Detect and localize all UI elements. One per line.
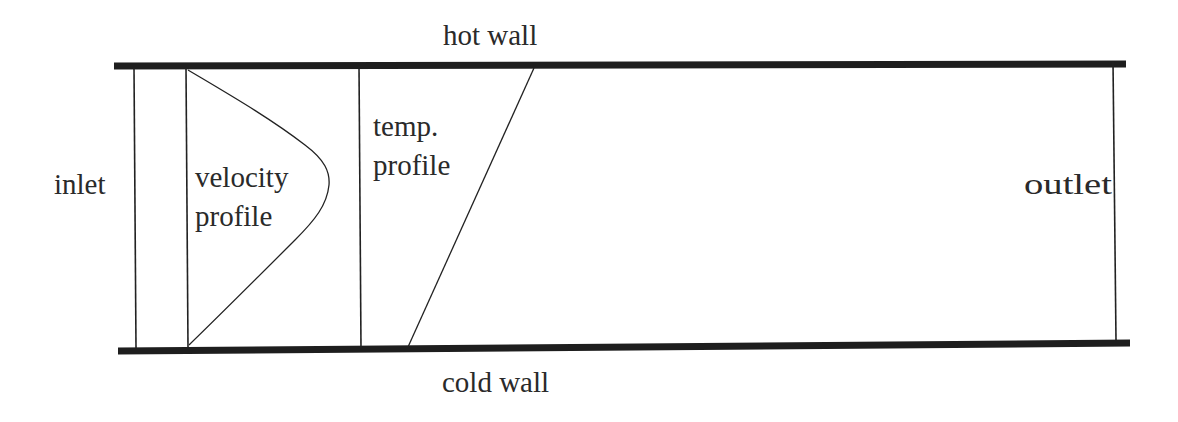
- temp-profile-label-line2: profile: [373, 149, 450, 181]
- velocity-profile-baseline: [186, 68, 188, 348]
- hot-wall-label: hot wall: [443, 19, 537, 51]
- outlet-line: [1113, 62, 1116, 340]
- temp-profile-label-line1: temp.: [373, 110, 438, 142]
- inlet-label: inlet: [54, 168, 106, 200]
- cold-wall-label: cold wall: [442, 366, 549, 398]
- hot-wall: [114, 64, 1126, 66]
- cold-wall: [118, 343, 1130, 351]
- temp-profile-baseline: [359, 66, 361, 348]
- velocity-profile-label-line1: velocity: [195, 161, 289, 193]
- channel-flow-diagram: hot wall cold wall inlet outlet velocity…: [0, 0, 1178, 422]
- inlet-line: [134, 68, 136, 348]
- velocity-profile-label-line2: profile: [195, 200, 272, 232]
- outlet-label: outlet: [1024, 168, 1112, 200]
